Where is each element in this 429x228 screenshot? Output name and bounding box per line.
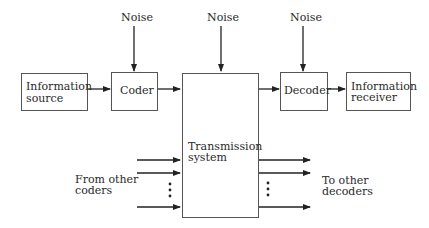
noise-label-coder: Noise [121, 12, 153, 23]
noise-label-transmission: Noise [207, 12, 239, 23]
coder-label: Coder [120, 85, 154, 96]
to-other-decoders-label-2: decoders [322, 186, 373, 197]
information-source-label-2: source [26, 93, 63, 104]
from-other-coders-label-2: coders [75, 185, 112, 196]
information-source-label-1: Information [26, 81, 92, 92]
information-receiver-label-2: receiver [351, 92, 397, 103]
noise-label-decoder: Noise [290, 12, 322, 23]
decoder-label: Decoder [284, 85, 331, 96]
transmission-system-label-2: system [188, 152, 227, 163]
